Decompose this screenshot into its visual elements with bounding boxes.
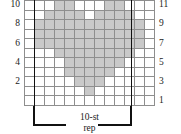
stitch-cell [75,30,85,40]
stitch-cell [145,11,155,21]
stitch-cell [135,58,145,68]
stitch-cell [95,96,105,106]
stitch-cell [85,87,95,97]
stitch-cell [125,87,135,97]
row-number: 4 [15,58,20,68]
stitch-cell [115,11,125,21]
stitch-cell [105,68,115,78]
stitch-cell [135,96,145,106]
stitch-cell [55,1,65,11]
stitch-cell [105,96,115,106]
stitch-cell [115,77,125,87]
stitch-cell [75,49,85,59]
stitch-cell [75,58,85,68]
stitch-cell [85,49,95,59]
stitch-cell [145,30,155,40]
stitch-cell [105,20,115,30]
stitch-cell [105,1,115,11]
stitch-cell [55,58,65,68]
stitch-cell [65,77,75,87]
stitch-cell [85,68,95,78]
stitch-cell [45,11,55,21]
stitch-cell [35,49,45,59]
stitch-cell [65,96,75,106]
repeat-boundary-right [131,0,132,106]
stitch-cell [75,39,85,49]
stitch-cell [55,87,65,97]
row-number: 9 [159,19,164,29]
stitch-cell [115,68,125,78]
stitch-cell [55,77,65,87]
stitch-cell [135,20,145,30]
stitch-cell [45,30,55,40]
stitch-cell [75,1,85,11]
stitch-cell [105,49,115,59]
stitch-cell [115,20,125,30]
stitch-cell [105,11,115,21]
stitch-cell [115,39,125,49]
stitch-cell [95,20,105,30]
stitch-cell [115,49,125,59]
stitch-cell [125,30,135,40]
stitch-cell [95,39,105,49]
stitch-cell [35,58,45,68]
stitch-cell [35,68,45,78]
stitch-cell [55,39,65,49]
stitch-cell [95,58,105,68]
stitch-cell [65,20,75,30]
stitch-cell [35,77,45,87]
stitch-cell [125,1,135,11]
stitch-cell [135,1,145,11]
stitch-cell [95,68,105,78]
stitch-cell [75,11,85,21]
stitch-cell [145,1,155,11]
stitch-cell [125,96,135,106]
stitch-cell [95,1,105,11]
repeat-label-line1: 10-st [80,112,99,122]
stitch-cell [65,49,75,59]
stitch-cell [65,11,75,21]
stitch-cell [125,20,135,30]
stitch-cell [65,87,75,97]
stitch-cell [145,87,155,97]
stitch-cell [35,1,45,11]
stitch-cell [55,68,65,78]
stitch-cell [145,20,155,30]
stitch-cell [145,96,155,106]
stitch-cell [65,58,75,68]
stitch-cell [145,58,155,68]
stitch-cell [145,49,155,59]
row-number: 2 [15,77,20,87]
stitch-cell [55,30,65,40]
stitch-cell [85,11,95,21]
row-number: 8 [15,19,20,29]
stitch-cell [125,49,135,59]
stitch-cell [135,30,145,40]
stitch-cell [105,58,115,68]
stitch-cell [45,77,55,87]
stitch-cell [95,30,105,40]
repeat-label-line2: rep [24,123,155,134]
stitch-cell [35,87,45,97]
stitch-cell [145,68,155,78]
stitch-cell [135,77,145,87]
stitch-cell [135,87,145,97]
stitch-cell [115,30,125,40]
stitch-cell [85,77,95,87]
stitch-cell [125,58,135,68]
stitch-cell [75,77,85,87]
stitch-cell [105,39,115,49]
stitch-cell [45,68,55,78]
stitch-cell [145,39,155,49]
stitch-cell [135,39,145,49]
stitch-cell [55,96,65,106]
stitch-cell [95,49,105,59]
row-number: 11 [159,0,168,10]
stitch-cell [115,1,125,11]
stitch-cell [85,96,95,106]
heart-chart: 108642 1197531 10-st rep [0,0,181,134]
stitch-cell [125,77,135,87]
repeat-boundary-left [34,0,35,106]
stitch-cell [35,39,45,49]
row-number: 10 [11,0,21,10]
